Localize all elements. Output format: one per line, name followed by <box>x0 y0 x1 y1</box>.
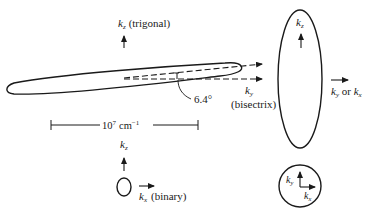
end-kz-label: kz <box>296 16 304 30</box>
tilt-angle-label: 6.4° <box>194 93 212 105</box>
small-kz-label: kz <box>120 138 128 152</box>
angle-marker-icon <box>175 73 191 99</box>
tilted-axis-dashed <box>124 64 262 78</box>
circle-ky-label: ky <box>286 174 293 186</box>
kz-trigonal-label: kz(trigonal) <box>118 17 171 31</box>
small-ellipsoid <box>117 178 131 196</box>
ky-label: ky <box>245 84 254 98</box>
end-view-ellipse <box>278 10 322 148</box>
circle-kx-label: kx <box>304 190 311 202</box>
scale-bar-label: 107cm−1 <box>102 119 140 131</box>
bisectrix-label: (bisectrix) <box>231 98 277 111</box>
fermi-surface-diagram: kz(trigonal) 6.4° ky (bisectrix) 107cm−1… <box>0 0 376 211</box>
kx-binary-label: kx(binary) <box>139 190 187 204</box>
ky-or-kx-label: ky or kx <box>331 85 363 99</box>
